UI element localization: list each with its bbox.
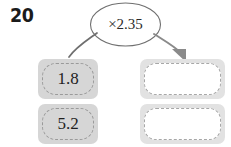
answer-box-row-1[interactable] xyxy=(140,59,225,99)
input-box-inner-row-2: 5.2 xyxy=(42,108,94,140)
input-value-row-2: 5.2 xyxy=(57,115,78,133)
operation-label: ×2.35 xyxy=(90,3,161,46)
worksheet-question: 20 ×2.35 1.8 5.2 xyxy=(0,0,231,147)
input-box-row-2: 5.2 xyxy=(38,104,98,144)
input-box-row-1: 1.8 xyxy=(38,59,98,99)
answer-box-inner-row-1[interactable] xyxy=(144,63,221,95)
input-box-inner-row-1: 1.8 xyxy=(42,63,94,95)
answer-box-row-2[interactable] xyxy=(140,104,225,144)
answer-box-inner-row-2[interactable] xyxy=(144,108,221,140)
input-value-row-1: 1.8 xyxy=(57,70,78,88)
